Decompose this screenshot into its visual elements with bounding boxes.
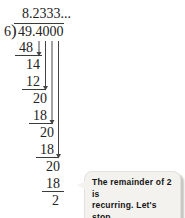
work-row-1: 14 [26, 57, 40, 72]
bring-down-arrow-3 [50, 41, 55, 125]
work-row-2: 12 [26, 74, 40, 89]
callout-tail [77, 181, 86, 190]
bring-down-arrow-4 [56, 41, 61, 159]
subtraction-rule-3 [36, 157, 59, 158]
work-row-6: 18 [40, 142, 54, 157]
bring-down-arrow-2 [43, 41, 48, 91]
subtraction-rule-4 [42, 191, 64, 192]
subtraction-rule-2 [29, 123, 53, 124]
work-row-4: 18 [33, 108, 47, 123]
subtraction-rule-0 [15, 55, 42, 56]
work-row-3: 20 [33, 91, 47, 106]
callout-text-line2: recurring. Let's stop. [92, 200, 174, 218]
division-bracket: ) [11, 22, 17, 39]
work-row-7: 20 [46, 159, 60, 174]
long-division-figure: 8.2333... 6 ) 49.4000 48 14 12 20 18 20 … [0, 0, 185, 218]
quotient-value: 8.2333... [22, 6, 71, 21]
work-row-8: 18 [46, 176, 60, 191]
callout-bubble: The remainder of 2 is recurring. Let's s… [84, 171, 181, 218]
divisor-value: 6 [4, 24, 11, 39]
work-row-5: 20 [40, 125, 54, 140]
subtraction-rule-1 [22, 89, 46, 90]
callout-text-line1: The remainder of 2 is [92, 177, 174, 200]
work-row-0: 48 [19, 40, 33, 55]
work-row-9: 2 [52, 193, 59, 208]
dividend-value: 49.4000 [18, 24, 64, 39]
